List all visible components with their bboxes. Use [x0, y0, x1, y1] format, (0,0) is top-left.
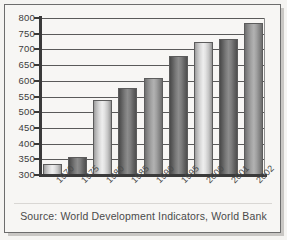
chart-figure: 300350400450500550600650700750800 Source…	[0, 0, 287, 240]
chart-source-caption: Source: World Development Indicators, Wo…	[0, 210, 287, 222]
bar	[194, 42, 213, 175]
y-axis-tick-label: 750	[5, 29, 35, 38]
y-axis-labels: 300350400450500550600650700750800	[2, 18, 35, 175]
gridline	[39, 18, 265, 19]
plot-right-edge	[264, 18, 265, 175]
plot-area	[39, 18, 265, 175]
bar	[169, 56, 188, 175]
caption-divider	[14, 203, 272, 204]
gridline	[39, 34, 265, 35]
y-axis-tick-label: 400	[5, 139, 35, 148]
y-axis-tick-label: 550	[5, 92, 35, 101]
y-axis-tick-label: 650	[5, 60, 35, 69]
y-axis-line	[39, 16, 42, 177]
bar	[93, 100, 112, 175]
figure-shadow-bottom	[8, 233, 284, 236]
y-axis-tick-label: 300	[5, 170, 35, 179]
bar	[118, 88, 137, 175]
y-axis-tick-label: 450	[5, 123, 35, 132]
bar	[244, 23, 263, 175]
y-axis-tick-label: 500	[5, 107, 35, 116]
bar	[144, 78, 163, 175]
y-axis-tick-label: 700	[5, 44, 35, 53]
y-axis-tick-label: 800	[5, 13, 35, 22]
y-axis-tick-label: 600	[5, 76, 35, 85]
y-axis-tick-label: 350	[5, 154, 35, 163]
figure-shadow-right	[281, 8, 284, 236]
bar	[219, 39, 238, 175]
